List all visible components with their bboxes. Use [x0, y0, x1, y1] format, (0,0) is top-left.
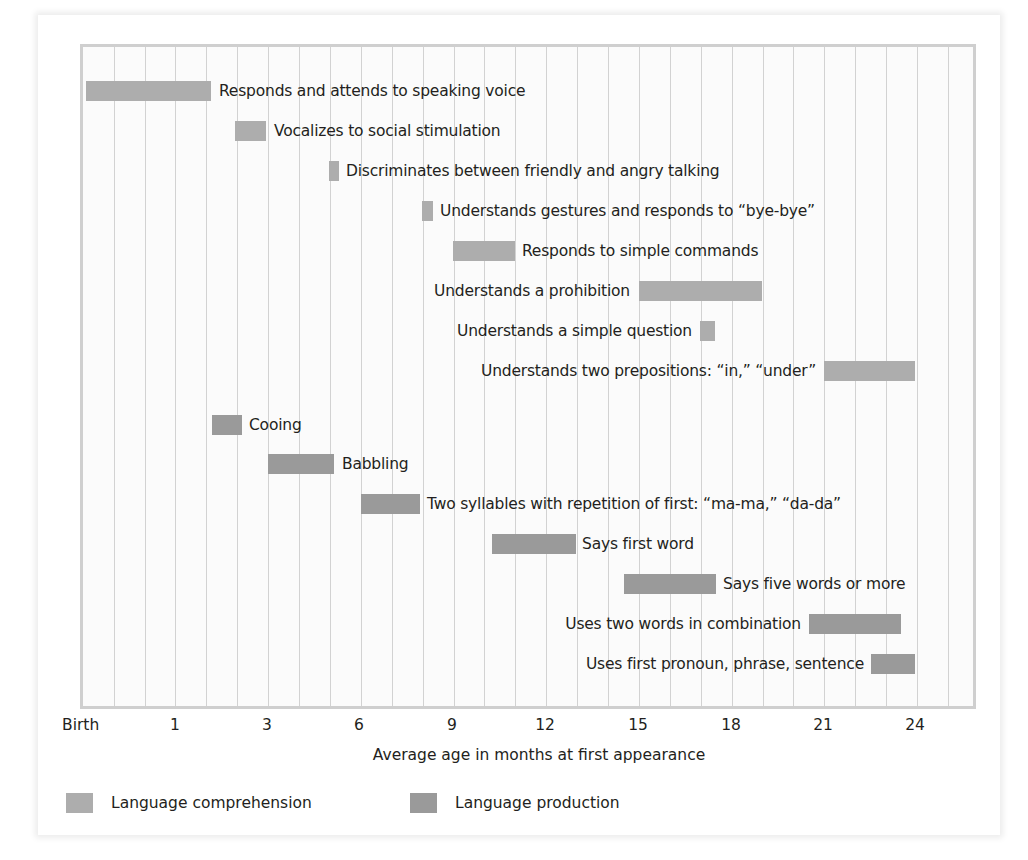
grid-line [454, 47, 455, 706]
grid-line [145, 47, 146, 706]
legend-label-comprehension: Language comprehension [111, 793, 312, 813]
bar-five-words [624, 574, 716, 594]
x-tick-12: 12 [535, 716, 555, 734]
x-tick-3: 3 [262, 716, 272, 734]
bar-simple-commands [453, 241, 515, 261]
bar-two-syllables [361, 494, 420, 514]
bar-prepositions [824, 361, 915, 381]
legend-label-production: Language production [455, 793, 620, 813]
bar-prohibition [639, 281, 762, 301]
label-five-words: Says five words or more [723, 574, 905, 594]
grid-line [206, 47, 207, 706]
grid-line [175, 47, 176, 706]
x-tick-9: 9 [447, 716, 457, 734]
bar-two-words-combination [809, 614, 901, 634]
bar-babbling [268, 454, 334, 474]
grid-line [237, 47, 238, 706]
bar-first-word [492, 534, 576, 554]
x-tick-birth: Birth [62, 716, 99, 734]
x-tick-6: 6 [354, 716, 364, 734]
legend-swatch-production [410, 793, 437, 813]
label-vocalizes: Vocalizes to social stimulation [274, 121, 500, 141]
x-tick-18: 18 [721, 716, 741, 734]
bar-cooing [212, 415, 242, 435]
grid-line [330, 47, 331, 706]
grid-line [392, 47, 393, 706]
bar-vocalizes [235, 121, 266, 141]
x-tick-15: 15 [628, 716, 648, 734]
label-prepositions: Understands two prepositions: “in,” “und… [481, 361, 816, 381]
label-first-pronoun: Uses first pronoun, phrase, sentence [586, 654, 864, 674]
x-tick-24: 24 [905, 716, 925, 734]
grid-line [114, 47, 115, 706]
bar-gestures [422, 201, 433, 221]
label-two-syllables: Two syllables with repetition of first: … [427, 494, 841, 514]
grid-line [361, 47, 362, 706]
label-simple-commands: Responds to simple commands [522, 241, 758, 261]
bar-first-pronoun [871, 654, 915, 674]
x-tick-1: 1 [170, 716, 180, 734]
grid-line [299, 47, 300, 706]
label-gestures: Understands gestures and responds to “by… [440, 201, 815, 221]
label-responds-voice: Responds and attends to speaking voice [219, 81, 525, 101]
bar-simple-question [700, 321, 715, 341]
label-two-words-combination: Uses two words in combination [565, 614, 801, 634]
label-babbling: Babbling [342, 454, 409, 474]
grid-line [917, 47, 918, 706]
label-cooing: Cooing [249, 415, 302, 435]
legend-swatch-comprehension [66, 793, 93, 813]
bar-responds-voice [86, 81, 211, 101]
bar-discriminates [329, 161, 339, 181]
x-axis-title: Average age in months at first appearanc… [0, 746, 1028, 764]
grid-line [948, 47, 949, 706]
x-tick-21: 21 [813, 716, 833, 734]
label-simple-question: Understands a simple question [457, 321, 692, 341]
label-discriminates: Discriminates between friendly and angry… [346, 161, 720, 181]
grid-line [268, 47, 269, 706]
label-prohibition: Understands a prohibition [434, 281, 630, 301]
grid-line [423, 47, 424, 706]
label-first-word: Says first word [582, 534, 694, 554]
